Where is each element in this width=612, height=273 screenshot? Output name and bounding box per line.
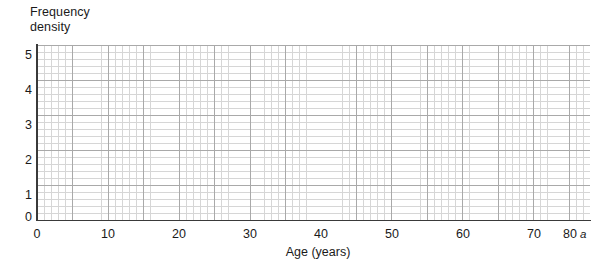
- x-tick-70: 70: [514, 224, 554, 240]
- frequency-density-chart: Frequencydensity 5 4 3 2 1 0 0 10 20 30 …: [0, 0, 612, 273]
- x-tick-label-40: 40: [314, 227, 328, 241]
- y-axis-title-line2: density: [30, 20, 70, 34]
- y-tick-3: 3: [14, 118, 32, 132]
- x-tick-label-10: 10: [101, 227, 115, 241]
- y-tick-label-5: 5: [14, 48, 32, 62]
- y-tick-4: 4: [14, 83, 32, 97]
- x-tick-label-20: 20: [172, 227, 186, 241]
- y-tick-1: 1: [14, 188, 32, 202]
- x-tick-40: 40: [301, 224, 341, 240]
- y-tick-label-3: 3: [14, 118, 32, 132]
- x-tick-0: 0: [17, 224, 57, 240]
- y-tick-label-4: 4: [14, 83, 32, 97]
- x-tick-label-30: 30: [243, 227, 257, 241]
- x-tick-10: 10: [88, 224, 128, 240]
- x-tick-label-50: 50: [385, 227, 399, 241]
- y-tick-label-2: 2: [14, 153, 32, 167]
- y-tick-label-0: 0: [14, 210, 32, 224]
- x-tick-60: 60: [443, 224, 483, 240]
- x-tick-label-80: 80: [563, 227, 577, 241]
- x-axis-variable-label: a: [580, 228, 586, 240]
- x-tick-label-60: 60: [456, 227, 470, 241]
- x-axis-title-text: Age (years): [286, 245, 351, 259]
- x-tick-50: 50: [372, 224, 412, 240]
- y-tick-0: 0: [14, 210, 32, 224]
- x-axis-title: Age (years): [0, 245, 612, 259]
- x-tick-label-70: 70: [527, 227, 541, 241]
- y-tick-label-1: 1: [14, 188, 32, 202]
- x-tick-30: 30: [230, 224, 270, 240]
- y-tick-2: 2: [14, 153, 32, 167]
- x-tick-80: 80a: [563, 224, 612, 240]
- plot-grid-area: [37, 45, 590, 220]
- y-axis-title: Frequencydensity: [30, 5, 90, 34]
- x-axis-line: [36, 220, 591, 222]
- x-tick-label-0: 0: [34, 227, 41, 241]
- x-tick-20: 20: [159, 224, 199, 240]
- y-tick-5: 5: [14, 48, 32, 62]
- y-axis-title-line1: Frequency: [30, 5, 90, 19]
- y-axis-line: [36, 44, 38, 221]
